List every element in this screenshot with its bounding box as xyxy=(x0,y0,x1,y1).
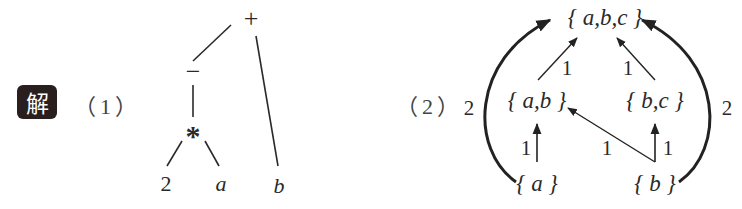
weight-b-bc: 1 xyxy=(663,136,674,160)
expression-tree xyxy=(167,25,278,166)
weight-b-abc: 2 xyxy=(722,96,733,120)
diagram-canvas: + − * 2 a b { a,b,c } { a,b } { b,c } { … xyxy=(0,0,742,209)
node-2: 2 xyxy=(161,171,172,196)
edge-star-2 xyxy=(167,141,182,166)
node-star: * xyxy=(186,119,201,152)
weight-a-ab: 1 xyxy=(521,136,532,160)
node-a: a xyxy=(216,171,227,196)
node-set-ab: { a,b } xyxy=(508,88,567,113)
weight-ab-abc: 1 xyxy=(562,56,573,80)
edge-star-a xyxy=(205,141,219,166)
weight-bc-abc: 1 xyxy=(623,56,634,80)
weight-a-abc: 2 xyxy=(464,96,475,120)
edge-weights: 1 1 1 1 1 2 2 xyxy=(464,56,733,160)
node-b: b xyxy=(274,173,285,198)
weight-b-ab: 1 xyxy=(602,136,613,160)
node-set-a: { a } xyxy=(516,171,557,196)
node-set-bc: { b,c } xyxy=(626,88,683,113)
node-set-b: { b } xyxy=(634,171,675,196)
node-minus: − xyxy=(186,57,201,86)
node-set-abc: { a,b,c } xyxy=(568,5,643,30)
edge-plus-b xyxy=(256,36,278,166)
edge-plus-minus xyxy=(193,25,231,61)
lattice-nodes: { a,b,c } { a,b } { b,c } { a } { b } xyxy=(508,5,684,196)
node-plus: + xyxy=(244,4,259,33)
